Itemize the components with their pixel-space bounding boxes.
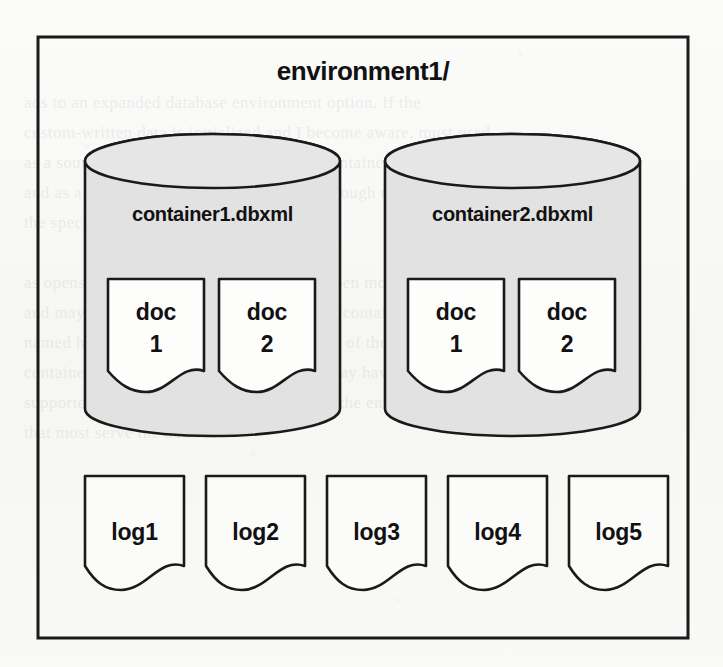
environment-diagram: environment1/ container1.dbxml doc 1 doc… [0,0,723,667]
diagram-page: ads to an expanded database environment … [0,0,723,667]
container1-label: container1.dbxml [132,203,293,225]
container-group-container2[interactable]: container2.dbxml doc 1 doc 2 [385,134,640,436]
document-label-line1: doc [247,299,288,325]
log-file-1[interactable]: log1 [85,476,184,590]
document-label-line1: doc [547,299,588,325]
document-label-line1: doc [136,299,177,325]
document-label-line2: 1 [450,331,463,357]
log-label: log3 [353,519,399,545]
container2-label: container2.dbxml [432,203,593,225]
log-label: log5 [595,519,642,545]
document-label-line1: doc [436,299,477,325]
log-file-3[interactable]: log3 [327,476,426,590]
log-file-5[interactable]: log5 [569,476,668,590]
container-group-container1[interactable]: container1.dbxml doc 1 doc 2 [85,134,340,436]
log-label: log2 [232,519,278,545]
log-label: log4 [474,519,521,545]
log-file-2[interactable]: log2 [206,476,305,590]
container2-cylinder-top [385,134,640,188]
document-label-line2: 2 [561,331,574,357]
container1-cylinder-top [85,134,340,188]
log-label: log1 [111,519,158,545]
document-label-line2: 1 [150,331,163,357]
page-title: environment1/ [277,56,450,86]
log-file-4[interactable]: log4 [448,476,547,590]
log-files-row: log1 log2 log3 log4 log5 [85,476,668,590]
document-label-line2: 2 [261,331,274,357]
